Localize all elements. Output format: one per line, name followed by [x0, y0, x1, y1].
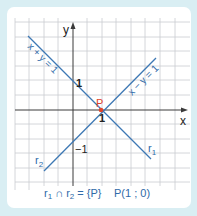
- x-axis-label: x: [180, 114, 186, 128]
- y-axis-arrow-icon: [71, 22, 76, 29]
- equation-r1-label: x + y = 1: [26, 41, 61, 76]
- tick-y-minus-1: −1: [75, 143, 88, 155]
- caption-coordinates: P(1 ; 0): [114, 187, 150, 199]
- tick-x-1: 1: [99, 112, 105, 124]
- x-axis-arrow-icon: [181, 108, 188, 113]
- line-r1-name: r1: [148, 142, 157, 157]
- point-p-label: P: [96, 97, 103, 109]
- line-r2-name: r2: [35, 154, 44, 169]
- coordinate-plane: y x 1 −1 1 P x + y = 1 x − y = 1 r1 r2 r…: [0, 0, 197, 216]
- tick-y-1: 1: [76, 77, 82, 89]
- y-axis-label: y: [63, 23, 69, 37]
